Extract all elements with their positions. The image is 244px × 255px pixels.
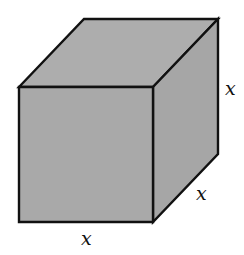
cube-diagram: x x x [0,0,244,255]
cube-front-face [19,87,153,222]
width-label: x [81,227,92,249]
depth-label: x [196,182,207,204]
height-label: x [225,77,236,99]
